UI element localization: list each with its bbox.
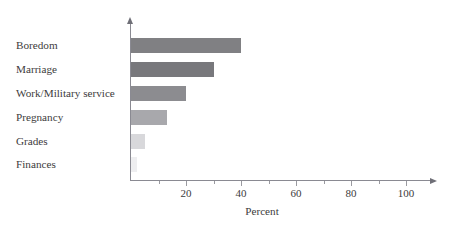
- x-axis-minor-tick: [269, 181, 270, 184]
- x-axis-tick-label: 100: [390, 187, 422, 200]
- bar-work-military-service: [131, 86, 186, 101]
- bar-finances: [131, 157, 137, 172]
- x-axis-line: [130, 180, 431, 181]
- x-axis-major-tick: [296, 181, 297, 186]
- category-label-marriage: Marriage: [16, 62, 57, 77]
- bar-boredom: [131, 38, 241, 53]
- category-label-row: Marriage: [16, 62, 128, 77]
- x-axis-tick-label: 60: [280, 187, 312, 200]
- x-axis-major-tick: [406, 181, 407, 186]
- x-axis-tick-label: 20: [170, 187, 202, 200]
- x-axis-minor-tick: [214, 181, 215, 184]
- x-axis-title: Percent: [222, 204, 302, 218]
- bar-pregnancy: [131, 110, 167, 125]
- category-label-row: Boredom: [16, 38, 128, 53]
- category-label-boredom: Boredom: [16, 38, 58, 53]
- category-label-row: Work/Military service: [16, 86, 128, 101]
- category-label-finances: Finances: [16, 157, 56, 172]
- x-axis-minor-tick: [324, 181, 325, 184]
- x-axis-minor-tick: [379, 181, 380, 184]
- bar-grades: [131, 134, 145, 149]
- x-axis-major-tick: [186, 181, 187, 186]
- x-axis-major-tick: [241, 181, 242, 186]
- category-label-work-military-service: Work/Military service: [16, 86, 115, 101]
- x-axis-minor-tick: [159, 181, 160, 184]
- category-label-row: Finances: [16, 157, 128, 172]
- x-axis-tick-label: 80: [335, 187, 367, 200]
- x-axis-arrow-icon: [430, 178, 437, 184]
- category-label-grades: Grades: [16, 134, 48, 149]
- x-axis-tick-label: 40: [225, 187, 257, 200]
- y-axis-line: [130, 24, 131, 181]
- category-label-row: Pregnancy: [16, 110, 128, 125]
- category-label-pregnancy: Pregnancy: [16, 110, 63, 125]
- plot-area: Boredom Marriage Work/Military service P…: [0, 0, 462, 227]
- y-axis-arrow-icon: [127, 17, 133, 24]
- x-axis-major-tick: [351, 181, 352, 186]
- bar-marriage: [131, 62, 214, 77]
- category-label-row: Grades: [16, 134, 128, 149]
- bar-chart: Boredom Marriage Work/Military service P…: [0, 0, 462, 227]
